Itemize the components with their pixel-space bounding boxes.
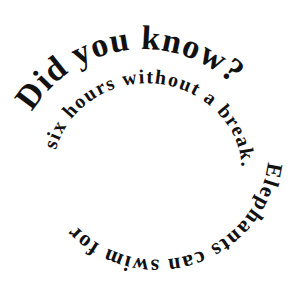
spiral-text-graphic: Did you know? Elephants can swim for six… [0,0,293,306]
fact-part1-text: Elephants can swim for [60,161,288,280]
spiral-svg: Did you know? Elephants can swim for six… [0,0,293,306]
fact-part1-path: Elephants can swim for [60,161,288,280]
